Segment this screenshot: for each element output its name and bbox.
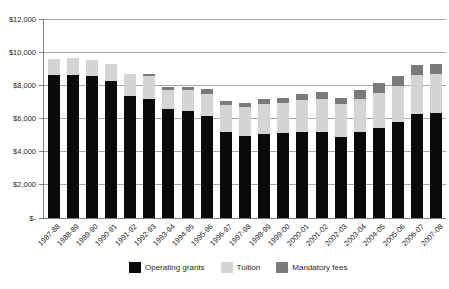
- segment-operating-grants: [48, 75, 60, 218]
- segment-operating-grants: [220, 132, 232, 218]
- segment-operating-grants: [354, 132, 366, 218]
- y-axis-tick: [39, 218, 43, 219]
- segment-operating-grants: [143, 99, 155, 218]
- segment-operating-grants: [258, 134, 270, 218]
- legend-swatch-tuition: [221, 262, 233, 273]
- segment-operating-grants: [124, 96, 136, 218]
- legend-swatch-operating-grants: [129, 262, 141, 273]
- segment-tuition: [143, 76, 155, 98]
- legend: Operating grants Tuition Mandatory fees: [129, 262, 347, 273]
- segment-tuition: [162, 90, 174, 109]
- segment-operating-grants: [373, 128, 385, 218]
- bar-1994-95: [182, 87, 194, 218]
- segment-tuition: [105, 64, 117, 81]
- bar-1996-97: [220, 101, 232, 218]
- segment-tuition: [316, 99, 328, 132]
- segment-mandatory-fees: [411, 65, 423, 75]
- bar-1987-88: [48, 59, 60, 218]
- bar-1988-89: [67, 58, 79, 218]
- segment-mandatory-fees: [335, 98, 347, 105]
- segment-tuition: [277, 103, 289, 133]
- segment-operating-grants: [239, 136, 251, 218]
- y-axis-label: $8,000: [0, 81, 36, 90]
- segment-operating-grants: [201, 116, 213, 218]
- bar-1998-99: [258, 99, 270, 218]
- segment-tuition: [354, 99, 366, 132]
- segment-tuition: [296, 100, 308, 132]
- y-axis-tick: [39, 52, 43, 53]
- segment-operating-grants: [67, 75, 79, 218]
- legend-item-tuition: Tuition: [221, 262, 261, 273]
- segment-tuition: [124, 74, 136, 96]
- segment-tuition: [86, 60, 98, 77]
- bar-2003-04: [354, 90, 366, 218]
- bar-1997-98: [239, 103, 251, 218]
- y-axis-label: $2,000: [0, 180, 36, 189]
- y-axis-label: $10,000: [0, 48, 36, 57]
- segment-mandatory-fees: [354, 90, 366, 98]
- y-axis-tick: [39, 85, 43, 86]
- y-axis-label: $12,000: [0, 15, 36, 24]
- segment-tuition: [392, 86, 404, 122]
- legend-swatch-mandatory-fees: [276, 262, 288, 273]
- segment-operating-grants: [105, 81, 117, 218]
- segment-operating-grants: [296, 132, 308, 218]
- segment-tuition: [201, 94, 213, 116]
- bar-1992-93: [143, 74, 155, 218]
- y-axis-label: $6,000: [0, 114, 36, 123]
- bar-2004-05: [373, 83, 385, 218]
- segment-mandatory-fees: [392, 76, 404, 86]
- y-axis-label: $-: [0, 214, 36, 223]
- y-axis-tick: [39, 19, 43, 20]
- bar-2006-07: [411, 65, 423, 218]
- segment-operating-grants: [392, 122, 404, 218]
- segment-mandatory-fees: [430, 64, 442, 74]
- bar-2005-06: [392, 76, 404, 218]
- plot-area: [43, 19, 446, 219]
- legend-label-mandatory-fees: Mandatory fees: [292, 262, 347, 273]
- bar-2001-02: [316, 92, 328, 218]
- gridline: [44, 19, 446, 20]
- segment-operating-grants: [335, 137, 347, 218]
- bar-1991-92: [124, 74, 136, 218]
- bar-2002-03: [335, 98, 347, 218]
- segment-operating-grants: [430, 113, 442, 218]
- segment-tuition: [239, 107, 251, 136]
- bar-2000-01: [296, 94, 308, 218]
- segment-mandatory-fees: [316, 92, 328, 99]
- legend-item-mandatory-fees: Mandatory fees: [276, 262, 347, 273]
- y-axis-tick: [39, 184, 43, 185]
- chart-figure: $-$2,000$4,000$6,000$8,000$10,000$12,000…: [0, 0, 449, 289]
- segment-operating-grants: [182, 111, 194, 218]
- segment-operating-grants: [277, 133, 289, 218]
- legend-label-operating-grants: Operating grants: [145, 262, 205, 273]
- bar-1990-91: [105, 64, 117, 218]
- segment-tuition: [430, 74, 442, 113]
- y-axis-tick: [39, 118, 43, 119]
- bar-1995-96: [201, 89, 213, 218]
- segment-tuition: [220, 105, 232, 132]
- segment-tuition: [258, 104, 270, 134]
- segment-tuition: [182, 90, 194, 112]
- gridline: [44, 52, 446, 53]
- bar-1989-90: [86, 60, 98, 218]
- legend-label-tuition: Tuition: [237, 262, 261, 273]
- y-axis-tick: [39, 151, 43, 152]
- segment-tuition: [335, 104, 347, 136]
- segment-tuition: [67, 58, 79, 75]
- bar-1993-94: [162, 87, 174, 218]
- bar-2007-08: [430, 64, 442, 218]
- segment-mandatory-fees: [373, 83, 385, 93]
- segment-tuition: [411, 75, 423, 113]
- segment-operating-grants: [162, 109, 174, 218]
- segment-operating-grants: [316, 132, 328, 218]
- y-axis-label: $4,000: [0, 147, 36, 156]
- segment-tuition: [48, 59, 60, 76]
- legend-item-operating-grants: Operating grants: [129, 262, 205, 273]
- segment-operating-grants: [86, 76, 98, 218]
- segment-operating-grants: [411, 114, 423, 218]
- segment-tuition: [373, 93, 385, 129]
- bar-1999-00: [277, 98, 289, 218]
